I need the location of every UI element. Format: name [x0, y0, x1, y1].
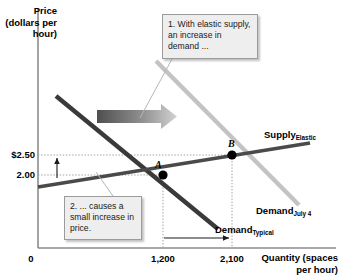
y-tick-label-250: $2.50	[0, 149, 35, 161]
x-axis-title: Quantity (spaces per hour)	[246, 252, 338, 275]
equilibrium-label-a: A	[155, 159, 162, 170]
supply-curve-label: SupplyElastic	[264, 129, 316, 140]
equilibrium-label-b: B	[228, 138, 235, 149]
supply-elastic-curve	[38, 143, 310, 187]
y-tick-label-200: 2.00	[0, 169, 35, 181]
y-axis-title: Price (dollars per hour)	[0, 5, 57, 40]
supply-curve-label-subscript: Elastic	[296, 134, 316, 141]
demand-shift-block-arrow	[97, 104, 177, 129]
equilibrium-point-a	[158, 170, 167, 179]
demand-typical-label-name: Demand	[215, 224, 252, 235]
x-tick-label-1200: 1,200	[139, 253, 187, 265]
demand-typical-label-subscript: Typical	[252, 229, 273, 236]
x-tick-label-zero: 0	[24, 253, 38, 265]
supply-curve-label-name: Supply	[264, 129, 296, 140]
supply-demand-figure: Price (dollars per hour) Quantity (space…	[0, 0, 338, 278]
demand-typical-curve-label: DemandTypical	[215, 224, 274, 235]
callout-elastic-supply: 1. With elastic supply, an increase in d…	[162, 14, 258, 59]
demand-july4-curve-label: DemandJuly 4	[256, 205, 311, 216]
x-tick-label-2100: 2,100	[208, 253, 256, 265]
callout-price-increase: 2. ... causes a small increase in price.	[64, 196, 142, 240]
equilibrium-point-b	[227, 150, 236, 159]
demand-july4-label-name: Demand	[256, 205, 293, 216]
demand-july4-label-subscript: July 4	[293, 210, 311, 217]
